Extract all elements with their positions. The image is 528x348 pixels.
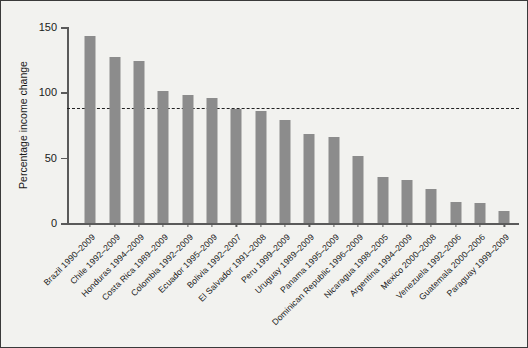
bar-group[interactable]: Venezuela 1992–2006: [444, 27, 468, 223]
x-tick-mark: [187, 223, 188, 227]
bar-group[interactable]: Chile 1992–2009: [103, 27, 127, 223]
bar[interactable]: [133, 61, 144, 223]
bar-group[interactable]: Peru 1999–2009: [273, 27, 297, 223]
y-tick-label: 150: [39, 21, 57, 33]
bar[interactable]: [182, 95, 193, 223]
bar[interactable]: [353, 156, 364, 223]
x-tick-mark: [333, 223, 334, 227]
x-tick-mark: [90, 223, 91, 227]
bar-group[interactable]: Panama 1995–2009: [322, 27, 346, 223]
bar-group[interactable]: Brazil 1990–2009: [78, 27, 102, 223]
x-axis-line: [67, 223, 519, 225]
y-tick-mark: [61, 223, 67, 225]
x-tick-mark: [138, 223, 139, 227]
x-tick-mark: [114, 223, 115, 227]
bar-group[interactable]: Colombia 1992–2009: [176, 27, 200, 223]
plot-area: 050100150 Brazil 1990–2009Chile 1992–200…: [67, 27, 519, 223]
bar[interactable]: [401, 180, 412, 223]
bar[interactable]: [499, 211, 510, 223]
x-tick-mark: [236, 223, 237, 227]
bar-group[interactable]: Costa Rica 1989–2009: [151, 27, 175, 223]
y-tick-label: 100: [39, 86, 57, 98]
bar-group[interactable]: Argentina 1994–2009: [395, 27, 419, 223]
x-tick-mark: [309, 223, 310, 227]
x-tick-mark: [211, 223, 212, 227]
x-tick-mark: [382, 223, 383, 227]
bar[interactable]: [255, 111, 266, 223]
bar-group[interactable]: Paraguay 1999–2009: [492, 27, 516, 223]
bar[interactable]: [231, 109, 242, 223]
bar-group[interactable]: Guatemala 2000–2006: [468, 27, 492, 223]
x-tick-mark: [431, 223, 432, 227]
x-tick-mark: [504, 223, 505, 227]
y-axis-title: Percentage income change: [15, 27, 31, 223]
bar-series: Brazil 1990–2009Chile 1992–2009Honduras …: [67, 27, 519, 223]
bar-group[interactable]: Bolivia 1992–2007: [224, 27, 248, 223]
bar[interactable]: [280, 120, 291, 223]
bar[interactable]: [158, 91, 169, 223]
y-tick-label: 50: [45, 152, 57, 164]
bar-group[interactable]: Dominican Republic 1996–2009: [346, 27, 370, 223]
x-tick-mark: [284, 223, 285, 227]
bar[interactable]: [109, 57, 120, 223]
chart-figure: Percentage income change 050100150 Brazi…: [0, 0, 528, 348]
x-tick-mark: [455, 223, 456, 227]
bar[interactable]: [206, 98, 217, 223]
x-tick-mark: [358, 223, 359, 227]
x-tick-mark: [406, 223, 407, 227]
bar-group[interactable]: Nicaragua 1998–2005: [371, 27, 395, 223]
x-tick-mark: [479, 223, 480, 227]
bar[interactable]: [328, 137, 339, 223]
x-tick-mark: [163, 223, 164, 227]
y-axis-title-text: Percentage income change: [17, 61, 29, 189]
x-tick-mark: [260, 223, 261, 227]
bar-group[interactable]: Uruguay 1989–2009: [297, 27, 321, 223]
bar[interactable]: [426, 189, 437, 223]
bar[interactable]: [304, 134, 315, 223]
bar-group[interactable]: El Salvador 1991–2008: [249, 27, 273, 223]
bar-group[interactable]: Honduras 1994–2009: [127, 27, 151, 223]
y-tick-label: 0: [51, 217, 57, 229]
bar[interactable]: [377, 177, 388, 223]
bar-group[interactable]: Mexico 2000–2008: [419, 27, 443, 223]
bar[interactable]: [475, 203, 486, 223]
bar[interactable]: [450, 202, 461, 223]
bar[interactable]: [85, 36, 96, 223]
bar-group[interactable]: Ecuador 1995–2009: [200, 27, 224, 223]
